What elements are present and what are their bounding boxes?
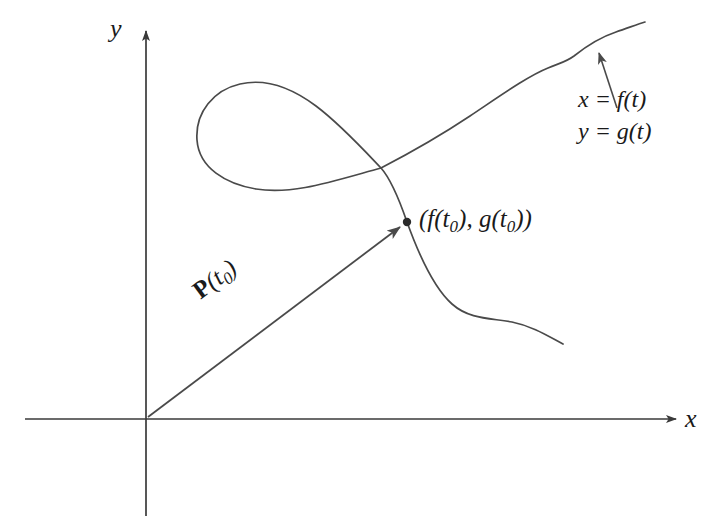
x-axis-label: x [685, 406, 697, 432]
parametric-equation-x: x = f(t) [578, 87, 646, 111]
parametric-curve-figure: y x (f(t0), g(t0)) x = f(t) y = g(t) P(t… [0, 0, 714, 526]
curve-lower-branch [381, 168, 563, 344]
point-coordinate-label: (f(t0), g(t0)) [419, 206, 532, 235]
parametric-equation-y: y = g(t) [578, 119, 652, 143]
point-label-text: (f(t0), g(t0)) [419, 205, 532, 232]
point-marker [403, 218, 411, 226]
curve-loop [197, 82, 381, 190]
y-axis-label: y [110, 16, 122, 42]
position-vector-arrow [148, 227, 400, 417]
figure-canvas [0, 0, 714, 526]
